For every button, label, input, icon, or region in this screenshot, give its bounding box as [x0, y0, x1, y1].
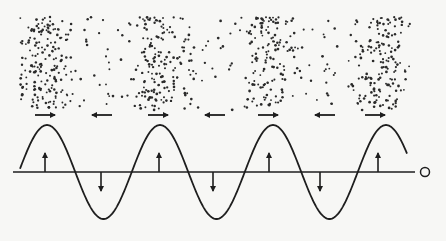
particle-dot	[265, 29, 267, 31]
particle-dot	[146, 60, 149, 63]
particle-dot	[153, 17, 155, 19]
particle-dot	[107, 93, 109, 95]
particle-dot	[42, 96, 44, 98]
particle-dot	[392, 82, 394, 84]
particle-dot	[276, 42, 278, 44]
particle-dot	[325, 82, 327, 84]
particle-dot	[386, 18, 389, 21]
particle-dot	[262, 35, 264, 37]
particle-dot	[350, 83, 353, 86]
particle-dot	[326, 63, 328, 65]
particle-dot	[382, 61, 384, 63]
particle-dot	[252, 97, 254, 99]
particle-dot	[274, 49, 277, 52]
particle-dot	[275, 95, 277, 97]
particle-dot	[267, 50, 269, 52]
particle-dot	[264, 59, 266, 61]
particle-dot	[172, 56, 175, 59]
particle-dot	[273, 79, 275, 81]
particle-dot	[173, 80, 175, 82]
particle-dot	[201, 80, 203, 82]
particle-dot	[155, 72, 158, 75]
particle-dot	[379, 105, 382, 108]
particle-dot	[248, 90, 251, 93]
particle-dot	[163, 87, 165, 89]
particle-dot	[44, 25, 46, 27]
particle-dot	[64, 65, 66, 67]
particle-dot	[375, 47, 377, 49]
particle-dot	[189, 53, 191, 55]
particle-dot	[348, 60, 350, 62]
particle-dot	[311, 29, 313, 31]
particle-dot	[323, 36, 325, 38]
particle-dot	[126, 94, 128, 96]
particle-dot	[333, 27, 336, 30]
particle-dot	[42, 18, 44, 20]
particle-dot	[281, 96, 284, 99]
particle-dot	[38, 41, 40, 43]
particle-dot	[277, 48, 280, 51]
particle-dot	[323, 70, 325, 72]
particle-dot	[33, 29, 36, 32]
particle-dot	[174, 36, 177, 39]
particle-dot	[170, 100, 172, 102]
particle-dot	[283, 65, 285, 67]
particle-dot	[379, 22, 381, 24]
particle-dot	[392, 58, 395, 61]
particle-dot	[336, 45, 339, 48]
particle-dot	[36, 25, 39, 28]
particle-dot	[388, 44, 391, 47]
particle-dot	[147, 37, 149, 39]
particle-dot	[42, 98, 44, 100]
particle-dot	[150, 45, 153, 48]
particle-dot	[166, 29, 168, 31]
axis-end-circle-marker	[421, 168, 430, 177]
particle-dot	[164, 59, 166, 61]
particle-dot	[31, 64, 33, 66]
particle-dot	[107, 48, 109, 50]
particle-dot	[37, 66, 39, 68]
particle-dot	[257, 84, 259, 86]
particle-dot	[70, 71, 72, 73]
particle-dot	[368, 101, 371, 104]
particle-dot	[368, 40, 370, 42]
particle-dot	[211, 67, 213, 69]
particle-dot	[244, 77, 247, 80]
particle-dot	[266, 94, 269, 97]
particle-dot	[388, 107, 391, 110]
particle-dot	[61, 37, 63, 39]
particle-dot	[220, 47, 222, 49]
particle-dot	[33, 71, 36, 74]
particle-dot	[37, 47, 39, 49]
particle-dot	[395, 90, 398, 93]
particle-dot	[395, 66, 397, 68]
particle-dot	[49, 20, 51, 22]
particle-dot	[39, 68, 41, 70]
particle-dot	[231, 108, 234, 111]
particle-dot	[379, 50, 381, 52]
particle-dot	[359, 53, 361, 55]
particle-dot	[234, 23, 236, 25]
particle-dot	[290, 46, 293, 49]
particle-dot	[105, 83, 107, 85]
particle-dot	[268, 20, 270, 22]
particle-dot	[142, 37, 144, 39]
particle-dot	[153, 105, 156, 108]
particle-dot	[373, 95, 375, 97]
particle-dot	[53, 101, 55, 103]
particle-dot	[163, 31, 165, 33]
particle-dot	[385, 71, 388, 74]
particle-dot	[276, 27, 278, 29]
particle-dot	[286, 50, 288, 52]
particle-dot	[178, 56, 180, 58]
particle-dot	[354, 23, 356, 25]
particle-dot	[47, 38, 49, 40]
particle-dot	[143, 81, 145, 83]
particle-dot	[240, 17, 242, 19]
particle-dot	[353, 89, 355, 91]
particle-dot	[214, 76, 217, 79]
particle-dot	[360, 57, 363, 60]
particle-dot	[40, 33, 42, 35]
particle-dot	[27, 27, 29, 29]
particle-dot	[60, 59, 63, 62]
